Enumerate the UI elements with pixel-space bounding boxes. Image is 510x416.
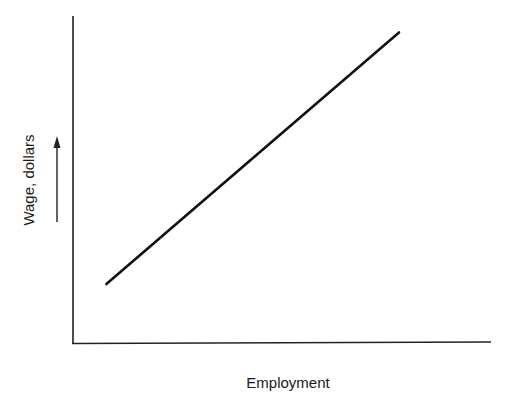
x-axis	[72, 342, 491, 344]
arrow-up-icon	[54, 136, 61, 222]
x-axis-label: Employment	[246, 374, 330, 391]
chart: Wage, dollars Employment	[0, 0, 510, 416]
y-axis-label: Wage, dollars	[20, 134, 37, 225]
supply-curve-line	[106, 32, 399, 284]
